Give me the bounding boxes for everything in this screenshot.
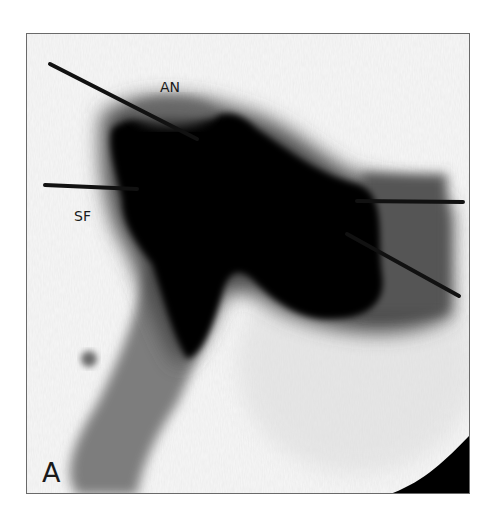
- annotation-label-an: AN: [160, 80, 180, 94]
- panel-label: A: [42, 459, 60, 486]
- contrast-nodule: [81, 351, 97, 367]
- needle-right-horizontal: [357, 201, 463, 202]
- radiograph-panel: AN SF A: [26, 33, 470, 494]
- radiograph-image: [27, 34, 470, 494]
- annotation-label-sf: SF: [74, 209, 91, 223]
